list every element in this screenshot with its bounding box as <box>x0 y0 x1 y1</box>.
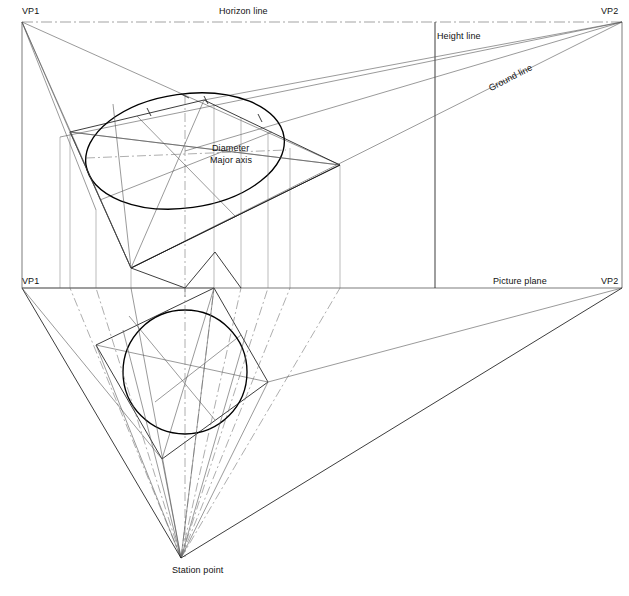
label-vp2-bottom: VP2 <box>601 276 618 286</box>
label-vp1-bottom: VP1 <box>22 276 39 286</box>
label-vp1-top: VP1 <box>22 6 39 16</box>
diameter-line <box>70 132 340 165</box>
perspective-box-frame <box>22 22 622 288</box>
label-picture-plane: Picture plane <box>493 276 547 286</box>
plan-tie-lines <box>22 288 622 459</box>
label-diameter: Diameter <box>212 143 249 153</box>
label-station-point: Station point <box>172 565 223 575</box>
ellipse-tick-marks <box>147 94 262 122</box>
label-height-line: Height line <box>437 31 481 41</box>
station-point-sight-lines <box>96 288 268 558</box>
station-point-chain-rays <box>70 288 340 558</box>
label-vp2-top: VP2 <box>601 6 618 16</box>
drawing-canvas: .heavy{stroke:#000000;stroke-width:1.35;… <box>0 0 629 596</box>
perspective-enclosing-square <box>70 100 340 268</box>
ground-line <box>60 22 622 268</box>
plan-vanishing-rays <box>22 288 622 558</box>
label-major-axis: Major axis <box>210 155 252 165</box>
perspective-construction-svg: .heavy{stroke:#000000;stroke-width:1.35;… <box>0 0 629 596</box>
vp1-rays <box>22 22 340 268</box>
major-axis-line <box>86 150 286 158</box>
label-horizon-line: Horizon line <box>219 6 268 16</box>
vertical-projectors-upper <box>60 104 340 288</box>
